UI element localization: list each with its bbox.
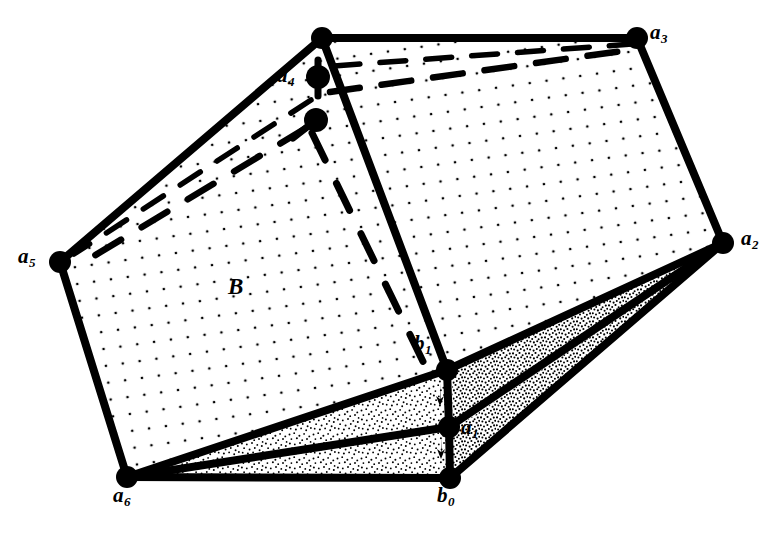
label-b1-sub: 1 <box>425 342 432 357</box>
label-a4: a4 <box>277 65 295 88</box>
label-a4-sub: 4 <box>288 74 295 89</box>
diagram-canvas: B a4 a3 a2 a5 a6 b1 a1 b0 <box>0 0 780 537</box>
vertex-a2 <box>712 232 734 254</box>
label-a1: a1 <box>461 417 479 440</box>
label-a3-sub: 3 <box>661 31 668 46</box>
label-a2: a2 <box>741 228 759 251</box>
label-a6-sub: 6 <box>124 494 131 509</box>
vertex-a3 <box>626 27 648 49</box>
region-label-B: B <box>228 275 243 298</box>
label-a5: a5 <box>18 246 36 269</box>
label-a5-sub: 5 <box>29 255 36 270</box>
label-b0: b0 <box>437 485 455 508</box>
polyhedron-svg <box>0 0 780 537</box>
edge-a6-b0 <box>127 477 450 478</box>
vertex-inner <box>304 108 328 132</box>
label-a2-sub: 2 <box>752 237 759 252</box>
label-a1-sub: 1 <box>472 426 479 441</box>
vertex-a5 <box>49 251 71 273</box>
label-a6: a6 <box>113 485 131 508</box>
vertex-a4 <box>306 65 330 89</box>
vertex-a1 <box>438 416 460 438</box>
label-a3: a3 <box>650 22 668 45</box>
vertex-b1 <box>436 359 458 381</box>
apex-vertex <box>311 27 333 49</box>
label-b1: b1 <box>414 333 432 356</box>
label-b0-sub: 0 <box>448 494 455 509</box>
faces-group <box>60 38 723 477</box>
